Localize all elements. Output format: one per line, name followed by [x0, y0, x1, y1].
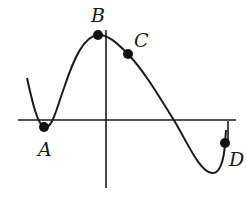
point-d: [220, 138, 230, 148]
point-b: [93, 30, 103, 40]
point-a: [39, 122, 49, 132]
label-d: D: [228, 148, 244, 170]
label-a: A: [36, 138, 52, 160]
function-graph: A B C D: [0, 0, 247, 205]
label-b: B: [90, 4, 105, 26]
point-c: [123, 49, 133, 59]
label-c: C: [134, 29, 149, 51]
